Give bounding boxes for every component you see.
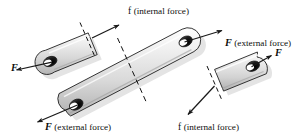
label-left-force-symbol: F xyxy=(11,63,18,73)
label-bottom-external-symbol: F xyxy=(45,121,52,132)
label-bottom-internal-text: (internal force) xyxy=(181,122,239,132)
force-arrow-f-upper-left-internal xyxy=(92,25,119,38)
label-bottom-internal-force: f (internal force) xyxy=(178,123,239,132)
label-bottom-external-text: (external force) xyxy=(52,122,111,132)
upper-left-link-segment xyxy=(35,23,97,75)
force-arrow-f-lower-right-internal xyxy=(188,86,215,115)
lower-right-link-segment xyxy=(207,52,267,102)
label-right-external-symbol: F xyxy=(225,37,232,48)
force-diagram-canvas xyxy=(0,0,300,137)
label-bottom-external-force: F (external force) xyxy=(45,122,111,132)
label-right-external-text: (external force) xyxy=(232,38,291,48)
force-diagram-figure: f (internal force) F (external force) F … xyxy=(0,0,300,137)
label-top-internal-text: (internal force) xyxy=(131,6,189,16)
label-upper-right-force-symbol: F xyxy=(275,48,282,58)
label-top-internal-force: f (internal force) xyxy=(128,7,189,16)
